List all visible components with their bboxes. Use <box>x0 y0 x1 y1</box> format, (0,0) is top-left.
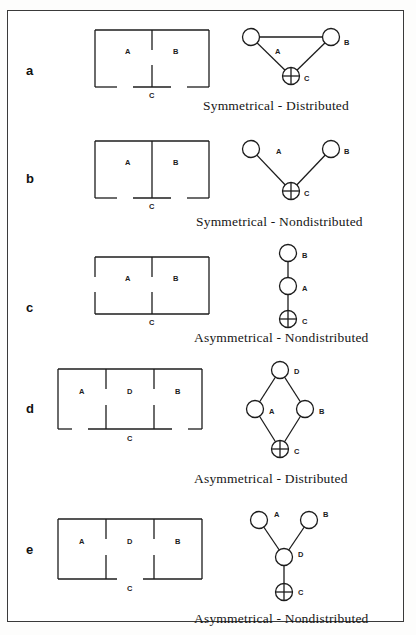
graph-label-c: C <box>298 588 304 597</box>
plan-outside-label-b: C <box>149 202 155 211</box>
figure-row-d: d A D B C <box>8 351 403 471</box>
graph-label-c: C <box>294 447 300 456</box>
graph-label-a: A <box>275 47 281 56</box>
plan-outside-label-d: C <box>127 434 133 443</box>
graph-node-a <box>251 512 268 529</box>
graph-label-c: C <box>304 189 310 198</box>
plan-room-label-c-right: B <box>173 274 179 283</box>
row-label-c: c <box>26 300 33 315</box>
justified-graph-c: B A C <box>263 241 363 331</box>
justified-graph-b: A B C <box>234 135 364 207</box>
caption-d: Asymmetrical - Distributed <box>194 471 348 487</box>
floor-plan-d: A D B C <box>50 361 210 443</box>
plan-room-label-d-right: B <box>175 387 181 396</box>
figure-row-c: c A B C <box>8 237 403 349</box>
row-label-a: a <box>26 63 33 78</box>
graph-node-b <box>297 401 314 418</box>
graph-node-b <box>301 512 318 529</box>
plan-room-label-d-mid: D <box>127 387 133 396</box>
justified-graph-e: A B D C <box>244 507 359 607</box>
graph-node-b <box>280 245 297 262</box>
plan-room-label-b-left: A <box>125 158 131 167</box>
plan-room-label-d-left: A <box>79 387 85 396</box>
floor-plan-a: A B C <box>91 24 213 100</box>
graph-label-b: B <box>344 38 350 47</box>
plan-room-label-c-left: A <box>125 274 131 283</box>
graph-label-a: A <box>302 284 308 293</box>
justified-graph-a: A B C <box>234 23 364 95</box>
graph-label-b: B <box>302 251 308 260</box>
graph-label-b: B <box>319 407 325 416</box>
caption-c: Asymmetrical - Nondistributed <box>194 330 369 346</box>
plan-outside-label-c: C <box>149 318 155 327</box>
plan-room-label-b-right: B <box>173 158 179 167</box>
floor-plan-c: A B C <box>91 251 213 327</box>
graph-label-c: C <box>304 74 310 83</box>
graph-label-d: D <box>294 367 300 376</box>
graph-label-a: A <box>269 407 275 416</box>
row-label-b: b <box>26 171 34 186</box>
figure-row-b: b A B C <box>8 127 403 235</box>
caption-b: Symmetrical - Nondistributed <box>196 214 363 230</box>
justified-graph-d: D A B C <box>244 357 359 462</box>
graph-node-d <box>272 362 289 379</box>
graph-node-a <box>280 278 297 295</box>
graph-node-b <box>323 141 340 158</box>
graph-label-b: B <box>323 510 329 519</box>
graph-label-d: D <box>298 550 304 559</box>
plan-room-label-e-left: A <box>79 537 85 546</box>
graph-node-a <box>247 401 264 418</box>
floor-plan-e: A D B C <box>50 511 210 593</box>
caption-e: Asymmetrical - Nondistributed <box>194 611 369 627</box>
row-label-e: e <box>26 542 33 557</box>
plan-room-label-e-mid: D <box>127 537 133 546</box>
graph-node-d <box>276 549 293 566</box>
figure-row-e: e A D B C <box>8 493 403 618</box>
floor-plan-b: A B C <box>91 135 213 211</box>
graph-node-a <box>243 29 260 46</box>
plan-room-label-a-left: A <box>125 47 131 56</box>
plan-room-label-a-right: B <box>173 47 179 56</box>
graph-label-b: B <box>344 147 350 156</box>
graph-node-a <box>243 141 260 158</box>
figure-frame: a A B C <box>7 10 404 622</box>
caption-a: Symmetrical - Distributed <box>203 98 349 114</box>
graph-label-c: C <box>302 317 308 326</box>
plan-outside-label-e: C <box>127 584 133 593</box>
figure-row-a: a A B C <box>8 15 403 120</box>
plan-room-label-e-right: B <box>175 537 181 546</box>
row-label-d: d <box>26 401 34 416</box>
graph-label-a: A <box>274 510 280 519</box>
graph-label-a: A <box>276 147 282 156</box>
graph-node-b <box>323 29 340 46</box>
plan-outside-label-a: C <box>149 91 155 100</box>
